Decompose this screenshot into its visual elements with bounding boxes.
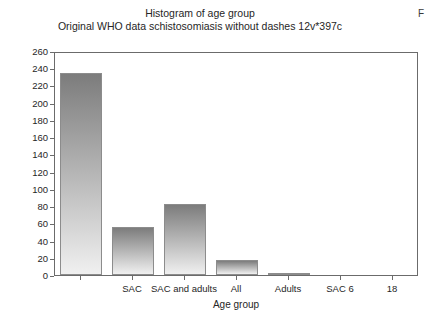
y-tick-label: 60 (18, 218, 48, 229)
bar (216, 260, 258, 276)
bar (112, 227, 154, 275)
x-tick-mark (288, 276, 289, 280)
y-tick-label: 160 (18, 132, 48, 143)
y-tick-label: 100 (18, 184, 48, 195)
bar (268, 273, 310, 275)
y-tick-label: 240 (18, 63, 48, 74)
x-tick-mark (184, 276, 185, 280)
chart-title: Histogram of age group (0, 7, 400, 20)
x-tick-mark (80, 276, 81, 280)
chart-title-block: Histogram of age group Original WHO data… (0, 7, 400, 33)
bar-series (55, 53, 417, 275)
y-tick-label: 20 (18, 253, 48, 264)
chart-subtitle: Original WHO data schistosomiasis withou… (0, 20, 400, 33)
corner-letter-glyph: F (418, 8, 424, 19)
y-tick-label: 40 (18, 236, 48, 247)
x-tick-mark (340, 276, 341, 280)
x-tick-mark (392, 276, 393, 280)
y-tick-label: 220 (18, 80, 48, 91)
x-tick-label: 18 (337, 283, 428, 294)
x-tick-mark (132, 276, 133, 280)
plot-area (54, 52, 418, 276)
chart-canvas: Histogram of age group Original WHO data… (0, 0, 428, 322)
x-axis-title: Age group (54, 299, 418, 310)
y-tick-label: 0 (18, 270, 48, 281)
y-tick-label: 180 (18, 115, 48, 126)
bar (60, 73, 102, 275)
y-tick-label: 120 (18, 167, 48, 178)
x-tick-mark (236, 276, 237, 280)
y-tick-mark (50, 276, 54, 277)
bar (164, 204, 206, 276)
y-tick-label: 80 (18, 201, 48, 212)
y-tick-label: 140 (18, 149, 48, 160)
y-tick-label: 260 (18, 46, 48, 57)
y-tick-label: 200 (18, 98, 48, 109)
